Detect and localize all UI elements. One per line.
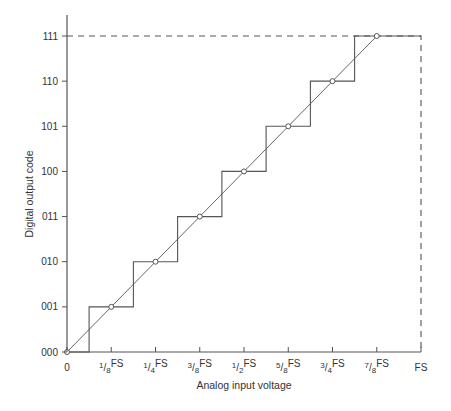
x-tick-label: 3/8FS: [188, 358, 213, 375]
y-tick-label: 011: [42, 211, 58, 222]
x-tick-label: 1/4FS: [143, 358, 168, 375]
y-axis-title: Digital output code: [23, 150, 35, 237]
quantization-staircase: [67, 36, 421, 352]
code-center-marker: [330, 79, 335, 84]
y-tick-label: 110: [42, 76, 58, 87]
y-tick-label: 101: [41, 121, 58, 132]
code-center-marker: [109, 304, 114, 309]
x-axis-title: Analog input voltage: [196, 379, 291, 391]
dashed-path: [67, 36, 421, 352]
code-center-marker: [153, 259, 158, 264]
y-tick-label: 100: [41, 166, 58, 177]
code-center-marker: [374, 34, 379, 39]
axes: [67, 15, 421, 352]
y-tick-label: 010: [41, 256, 58, 267]
adc-transfer-plot: 01/8FS1/4FS3/8FS1/2FS5/8FS3/4FS7/8FSFS 0…: [0, 0, 451, 411]
staircase-path: [67, 36, 421, 352]
x-tick-label: 7/8FS: [365, 358, 390, 375]
x-tick-label: 5/8FS: [276, 358, 301, 375]
y-axis-ticks: 000001010011100101110111: [41, 31, 67, 358]
x-tick-label: 0: [64, 362, 70, 373]
ideal-path: [67, 36, 377, 352]
code-center-marker: [286, 124, 291, 129]
x-tick-label: 3/4FS: [320, 358, 345, 375]
code-center-marker: [242, 169, 247, 174]
x-tick-label: 1/8FS: [99, 358, 124, 375]
ideal-transfer-line: [67, 36, 377, 352]
code-center-marker: [197, 214, 202, 219]
x-tick-label: 1/2FS: [232, 358, 257, 375]
y-tick-label: 111: [43, 31, 59, 42]
full-scale-dashed-lines: [67, 36, 421, 352]
x-axis-ticks: 01/8FS1/4FS3/8FS1/2FS5/8FS3/4FS7/8FSFS: [64, 347, 427, 375]
y-tick-label: 001: [41, 301, 58, 312]
x-tick-label: FS: [415, 362, 428, 373]
y-tick-label: 000: [41, 347, 58, 358]
